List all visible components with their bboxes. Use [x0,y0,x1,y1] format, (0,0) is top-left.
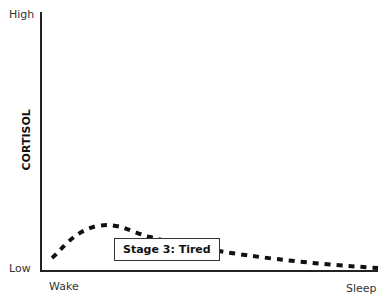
stage-annotation-box: Stage 3: Tired [114,238,220,261]
y-axis-label: CORTISOL [20,111,33,171]
y-tick-low: Low [9,262,31,275]
x-tick-sleep: Sleep [346,282,377,295]
y-tick-high: High [9,8,34,21]
x-tick-wake: Wake [49,280,79,293]
